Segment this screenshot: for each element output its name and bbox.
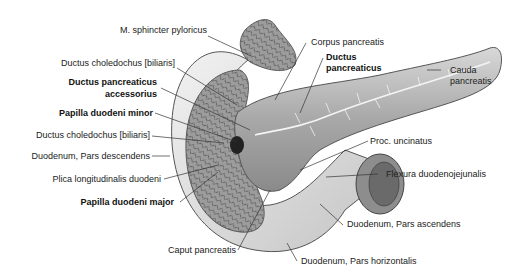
label-proc-uncinatus: Proc. uncinatus xyxy=(370,136,432,147)
label-ductus-pancreaticus-accessorius-2: accessorius xyxy=(105,89,157,100)
label-papilla-duodeni-minor: Papilla duodeni minor xyxy=(59,108,153,119)
label-ductus-pancreaticus-accessorius-1: Ductus pancreaticus xyxy=(68,77,157,88)
label-ductus-choledochus-1: Ductus choledochus [biliaris] xyxy=(61,58,175,69)
label-duodenum-pars-horizontalis: Duodenum, Pars horizontalis xyxy=(301,256,417,267)
label-papilla-duodeni-major: Papilla duodeni major xyxy=(80,197,174,208)
label-cauda-pancreatis-2: pancreatis xyxy=(450,76,492,87)
label-duodenum-pars-descendens: Duodenum, Pars descendens xyxy=(31,151,150,162)
anatomy-figure: M. sphincter pyloricus Ductus choledochu… xyxy=(0,0,523,276)
label-duodenum-pars-ascendens: Duodenum, Pars ascendens xyxy=(347,219,461,230)
label-ductus-pancreaticus-2: pancreaticus xyxy=(326,63,382,74)
label-caput-pancreatis: Caput pancreatis xyxy=(168,245,236,256)
label-flexura-duodenojejunalis: Flexura duodenojejunalis xyxy=(386,169,486,180)
label-sphincter-pyloricus: M. sphincter pyloricus xyxy=(120,25,207,36)
label-ductus-pancreaticus-1: Ductus xyxy=(326,52,357,63)
label-corpus-pancreatis: Corpus pancreatis xyxy=(311,37,384,48)
label-cauda-pancreatis-1: Cauda xyxy=(450,65,477,76)
label-ductus-choledochus-2: Ductus choledochus [biliaris] xyxy=(36,130,150,141)
label-plica-longitudinalis: Plica longitudinalis duodeni xyxy=(52,174,161,185)
